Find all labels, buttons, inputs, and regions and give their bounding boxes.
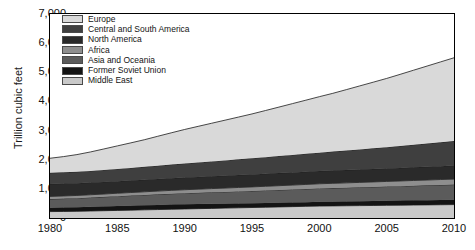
chart-legend: EuropeCentral and South AmericaNorth Ame… xyxy=(62,14,190,86)
x-axis-tick-label: 2010 xyxy=(429,223,475,234)
legend-item-label: Africa xyxy=(88,46,110,55)
legend-item[interactable]: Former Soviet Union xyxy=(62,65,190,75)
legend-item[interactable]: Asia and Oceania xyxy=(62,55,190,65)
x-axis-tick-label: 1990 xyxy=(160,223,210,234)
legend-swatch-icon xyxy=(62,46,83,54)
legend-swatch-icon xyxy=(62,15,83,23)
legend-item-label: Asia and Oceania xyxy=(88,56,155,65)
legend-item-label: Middle East xyxy=(88,76,132,85)
legend-swatch-icon xyxy=(62,25,83,33)
legend-swatch-icon xyxy=(62,67,83,75)
legend-item[interactable]: Middle East xyxy=(62,76,190,86)
x-axis-tick-label: 1995 xyxy=(227,223,277,234)
legend-item-label: Central and South America xyxy=(88,25,190,34)
x-axis-tick-label: 1980 xyxy=(25,223,75,234)
legend-item[interactable]: Africa xyxy=(62,45,190,55)
legend-swatch-icon xyxy=(62,56,83,64)
legend-item-label: Europe xyxy=(88,15,115,24)
legend-item[interactable]: North America xyxy=(62,35,190,45)
x-axis-tick-label: 2005 xyxy=(362,223,412,234)
legend-swatch-icon xyxy=(62,36,83,44)
legend-item-label: Former Soviet Union xyxy=(88,66,166,75)
legend-item[interactable]: Central and South America xyxy=(62,24,190,34)
x-axis-tick-label: 1985 xyxy=(92,223,142,234)
stacked-area-chart: Trillion cubic feet 01,0002,0003,0004,00… xyxy=(0,0,475,250)
legend-item[interactable]: Europe xyxy=(62,14,190,24)
legend-item-label: North America xyxy=(88,35,142,44)
x-axis-tick-label: 2000 xyxy=(294,223,344,234)
legend-swatch-icon xyxy=(62,77,83,85)
